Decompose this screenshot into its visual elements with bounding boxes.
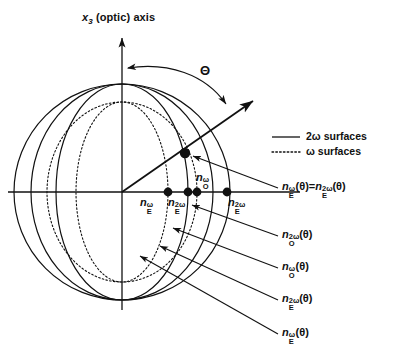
theta-angle-label: Θ [200, 64, 210, 77]
annotation-n-o-2w-theta: n2ωO(θ) [282, 229, 312, 240]
arg-ne2w: (θ) [299, 292, 312, 304]
axis-point-label-ne-2w: n2ωE [168, 197, 185, 208]
arg-pm-1: (θ) [296, 180, 309, 192]
phase-matching-point-dot [180, 148, 190, 158]
sub-ne-2w: E [175, 208, 180, 216]
sub-ne2w: E [289, 304, 294, 312]
axis-title-rest: (optic) axis [93, 11, 155, 23]
sub-new: E [289, 338, 294, 346]
axis-point-label-no-w: nωO [196, 172, 210, 183]
leader-line-n-o-w-theta [173, 228, 278, 268]
annotation-n-e-2w-theta: n2ωE(θ) [282, 293, 312, 304]
sub-pm-1: E [289, 192, 294, 200]
arg-now: (θ) [296, 260, 309, 272]
sub-pm-2: E [322, 192, 327, 200]
legend-item-2w-surfaces: 2ω surfaces [306, 131, 367, 142]
annotation-phase-match: nωE(θ)=n2ωE(θ) [282, 181, 346, 192]
page-title: x3 (optic) axis [82, 12, 155, 26]
sub-now: O [289, 272, 295, 280]
sub-no2w: O [289, 240, 295, 248]
sub-ne-w: E [147, 208, 152, 216]
legend-item-w-surfaces: ω surfaces [306, 146, 361, 157]
axis-point-label-ne-w: nωE [140, 197, 154, 208]
leader-line-n-e-2w-theta [160, 246, 278, 300]
arg-no2w: (θ) [299, 228, 312, 240]
arg-pm-2: (θ) [332, 180, 345, 192]
axis-point-label-ne-2w-outer: n2ωE [228, 197, 245, 208]
index-surface-figure: x3 (optic) axis Θ 2ω surfaces ω surfaces… [0, 0, 395, 364]
annotation-n-o-w-theta: nωO(θ) [282, 261, 309, 272]
annotation-n-e-w-theta: nωE(θ) [282, 327, 309, 338]
sub-no-w: O [203, 183, 209, 191]
arg-new: (θ) [296, 326, 309, 338]
sub-ne-2w-outer: E [235, 208, 240, 216]
leader-line-n-e-w-theta [140, 256, 278, 334]
